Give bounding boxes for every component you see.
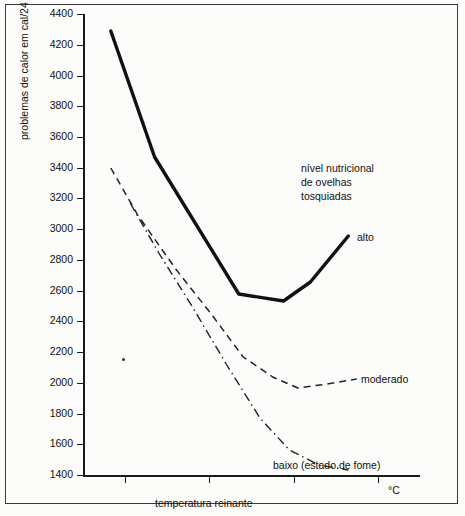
y-tick-label-2000: 2000 — [50, 376, 73, 389]
x-tick-10: 10 — [125, 477, 126, 483]
y-tick-label-4200: 4200 — [50, 38, 73, 51]
y-tick-label-1800: 1800 — [50, 407, 73, 420]
x-axis-unit: °C — [388, 484, 400, 496]
y-tick-label-2600: 2600 — [50, 284, 73, 297]
x-axis-title: temperatura reinante — [155, 497, 252, 509]
y-tick-label-3200: 3200 — [50, 191, 73, 204]
note-line-3: tosquiadas — [301, 190, 352, 202]
note-line-1: nível nutricional — [301, 162, 374, 174]
plot-area: 4400 4200 4000 3800 3600 3400 3200 3000 … — [83, 14, 420, 477]
note-line-2: de ovelhas — [301, 176, 352, 188]
y-tick-label-4000: 4000 — [50, 69, 73, 82]
y-tick-label-2200: 2200 — [50, 345, 73, 358]
x-axis-unit-text: °C — [388, 484, 400, 496]
x-tick-40: 40 — [378, 477, 379, 483]
series-layer — [83, 14, 420, 477]
y-tick-label-4400: 4400 — [50, 7, 73, 20]
y-tick-label-3000: 3000 — [50, 222, 73, 235]
series-label-alto: alto — [357, 230, 374, 244]
y-tick-label-2800: 2800 — [50, 253, 73, 266]
y-tick-label-3800: 3800 — [50, 99, 73, 112]
nutrition-level-note: nível nutricionalde ovelhastosquiadas — [301, 161, 374, 203]
y-tick-label-1600: 1600 — [50, 437, 73, 450]
chart-figure: 4400 4200 4000 3800 3600 3400 3200 3000 … — [0, 0, 465, 516]
series-line-baixo — [130, 203, 348, 470]
x-tick-20: 20 — [209, 477, 210, 483]
y-tick-label-3400: 3400 — [50, 161, 73, 174]
y-tick-label-2400: 2400 — [50, 314, 73, 327]
series-label-baixo: baixo (estado de fome) — [273, 458, 380, 472]
y-axis-title: problemas de calor em cal/24 h — [18, 0, 30, 140]
x-tick-30: 30 — [294, 477, 295, 483]
y-tick-label-3600: 3600 — [50, 130, 73, 143]
y-tick-label-1400: 1400 — [50, 468, 73, 481]
series-label-moderado: moderado — [361, 372, 408, 386]
